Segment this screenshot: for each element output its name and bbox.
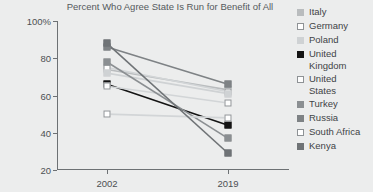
legend-item[interactable]: South Africa: [297, 126, 373, 139]
chart-legend: ItalyGermanyPolandUnited KingdomUnited S…: [297, 6, 373, 154]
legend-swatch-icon: [297, 51, 304, 58]
data-point: [104, 58, 111, 65]
y-tick-label: 80: [40, 53, 51, 64]
series-line: [107, 47, 228, 84]
legend-item[interactable]: Germany: [297, 20, 373, 33]
series-line: [107, 43, 228, 153]
legend-swatch-icon: [297, 101, 304, 108]
data-point: [225, 81, 232, 88]
legend-item[interactable]: United Kingdom: [297, 48, 373, 72]
data-point: [225, 99, 232, 106]
data-point: [104, 70, 111, 77]
plot-area: 100%80604020 20022019: [57, 21, 289, 170]
legend-swatch-icon: [297, 9, 304, 16]
data-point: [104, 40, 111, 47]
data-point: [225, 135, 232, 142]
data-point: [104, 111, 111, 118]
data-point: [225, 90, 232, 97]
y-tick-label: 40: [40, 127, 51, 138]
legend-swatch-icon: [297, 76, 304, 83]
legend-item-label: South Africa: [309, 126, 360, 138]
data-point: [225, 150, 232, 157]
legend-swatch-icon: [297, 143, 304, 150]
legend-swatch-icon: [297, 37, 304, 44]
y-tick-label: 20: [40, 165, 51, 176]
legend-swatch-icon: [297, 115, 304, 122]
data-point: [225, 114, 232, 121]
legend-item-label: Turkey: [309, 98, 338, 110]
legend-item-label: Poland: [309, 34, 339, 46]
legend-swatch-icon: [297, 129, 304, 136]
series-line: [107, 114, 228, 118]
y-tick: [53, 170, 57, 171]
legend-item[interactable]: Kenya: [297, 140, 373, 153]
legend-item[interactable]: Italy: [297, 6, 373, 19]
legend-item-label: United Kingdom: [309, 48, 347, 72]
x-tick-label: 2019: [217, 178, 238, 189]
legend-item-label: United States: [309, 73, 336, 97]
chart-title: Percent Who Agree State Is Run for Benef…: [45, 1, 295, 12]
legend-item-label: Italy: [309, 6, 326, 18]
y-tick-label: 100%: [27, 16, 51, 27]
legend-item[interactable]: Russia: [297, 112, 373, 125]
legend-item[interactable]: Poland: [297, 34, 373, 47]
x-tick: [228, 170, 229, 174]
legend-swatch-icon: [297, 23, 304, 30]
x-tick: [107, 170, 108, 174]
x-tick-label: 2002: [96, 178, 117, 189]
series-lines: [57, 21, 289, 170]
legend-item[interactable]: Turkey: [297, 98, 373, 111]
legend-item-label: Kenya: [309, 140, 336, 152]
data-point: [225, 122, 232, 129]
legend-item[interactable]: United States: [297, 73, 373, 97]
legend-item-label: Russia: [309, 112, 338, 124]
legend-item-label: Germany: [309, 20, 348, 32]
data-point: [104, 83, 111, 90]
y-tick-label: 60: [40, 90, 51, 101]
chart-container: Percent Who Agree State Is Run for Benef…: [0, 0, 373, 192]
